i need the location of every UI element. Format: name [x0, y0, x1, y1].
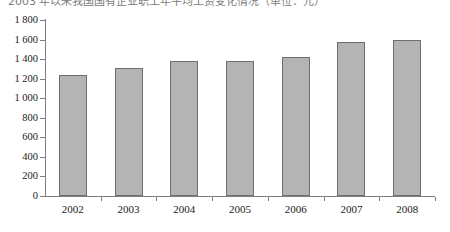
y-axis-tick: [40, 79, 45, 80]
x-axis-label: 2008: [379, 203, 435, 216]
x-axis-label: 2007: [324, 203, 380, 216]
y-axis-tick: [40, 98, 45, 99]
y-axis-tick: [40, 196, 45, 197]
y-axis-label: 0: [33, 191, 38, 202]
y-axis-label: 1 800: [14, 15, 38, 26]
x-axis-label: 2004: [156, 203, 212, 216]
x-axis-label: 2006: [268, 203, 324, 216]
bar: [170, 61, 198, 196]
bar: [393, 40, 421, 196]
y-axis-label: 800: [22, 113, 38, 124]
y-axis-tick: [40, 176, 45, 177]
y-axis-label: 600: [22, 132, 38, 143]
x-axis-tick: [268, 197, 269, 201]
bar: [337, 42, 365, 196]
y-axis-tick: [40, 137, 45, 138]
bar: [115, 68, 143, 196]
x-axis-tick: [156, 197, 157, 201]
y-axis-tick: [40, 118, 45, 119]
y-axis-label: 1 200: [14, 74, 38, 85]
y-axis-tick: [40, 40, 45, 41]
y-axis-label: 400: [22, 152, 38, 163]
x-axis-label: 2003: [101, 203, 157, 216]
x-axis-label: 2005: [212, 203, 268, 216]
x-axis-tick: [212, 197, 213, 201]
y-axis-label: 200: [22, 171, 38, 182]
bar: [282, 57, 310, 196]
bar: [59, 75, 87, 196]
x-axis-label: 2002: [45, 203, 101, 216]
y-axis-tick: [40, 59, 45, 60]
bar-chart: 02004006008001 0001 2001 4001 6001 80020…: [0, 0, 450, 232]
x-axis-line: [45, 196, 435, 197]
y-axis-label: 1 600: [14, 35, 38, 46]
y-axis-tick: [40, 20, 45, 21]
y-axis-label: 1 400: [14, 54, 38, 65]
x-axis-tick: [379, 197, 380, 201]
bar: [226, 61, 254, 196]
y-axis-tick: [40, 157, 45, 158]
y-axis-label: 1 000: [14, 93, 38, 104]
x-axis-tick: [324, 197, 325, 201]
x-axis-tick: [435, 197, 436, 201]
x-axis-tick: [101, 197, 102, 201]
